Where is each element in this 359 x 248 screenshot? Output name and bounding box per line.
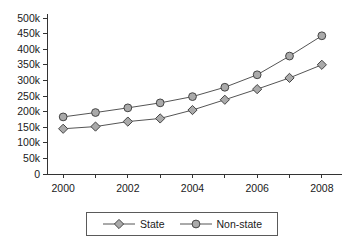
data-point-marker: [188, 105, 197, 114]
data-point-marker: [124, 104, 132, 112]
y-axis-tick-label: 250k: [4, 91, 40, 102]
x-axis-tick-label: 2004: [173, 183, 213, 194]
data-point-marker: [156, 114, 165, 123]
data-point-marker: [59, 113, 67, 121]
legend-label: Non-state: [217, 218, 263, 230]
data-point-marker: [253, 71, 261, 79]
x-axis-tick-label: 2008: [302, 183, 342, 194]
data-point-marker: [220, 95, 229, 104]
y-axis-tick-label: 350k: [4, 59, 40, 70]
y-axis-tick-label: 200k: [4, 106, 40, 117]
line-chart: 050k100k150k200k250k300k350k400k450k500k…: [0, 0, 359, 248]
y-axis-tick-label: 300k: [4, 75, 40, 86]
x-axis-tick-label: 2002: [108, 183, 148, 194]
chart-plot-area: [0, 0, 359, 248]
x-axis-ticks: [63, 174, 322, 178]
y-axis-tick-label: 400k: [4, 44, 40, 55]
y-axis-tick-label: 50k: [4, 153, 40, 164]
diamond-marker-icon: [102, 218, 136, 230]
legend-label: State: [140, 218, 165, 230]
legend-item-state[interactable]: State: [102, 218, 165, 230]
y-axis-tick-label: 500k: [4, 13, 40, 24]
chart-legend: StateNon-state: [86, 212, 278, 236]
data-point-marker: [123, 117, 132, 126]
data-point-marker: [253, 85, 262, 94]
data-point-marker: [221, 83, 229, 91]
data-point-marker: [286, 52, 294, 60]
data-point-marker: [92, 109, 100, 117]
y-axis-tick-label: 450k: [4, 28, 40, 39]
legend-item-non-state[interactable]: Non-state: [179, 218, 263, 230]
data-point-marker: [59, 124, 68, 133]
data-point-marker: [189, 93, 197, 101]
y-axis-tick-label: 150k: [4, 122, 40, 133]
circle-marker-icon: [179, 218, 213, 230]
y-axis-ticks: [43, 18, 47, 174]
y-axis-tick-label: 100k: [4, 137, 40, 148]
data-point-marker: [317, 60, 326, 69]
data-point-marker: [156, 99, 164, 107]
x-axis-tick-label: 2006: [237, 183, 277, 194]
data-point-marker: [285, 73, 294, 82]
y-axis-tick-label: 0: [4, 169, 40, 180]
data-point-marker: [318, 32, 326, 40]
data-point-marker: [91, 122, 100, 131]
x-axis-tick-label: 2000: [43, 183, 83, 194]
